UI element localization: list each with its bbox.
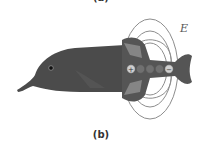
field-label: E — [180, 22, 188, 35]
svg-text:−: − — [166, 66, 172, 74]
figure-caption: (b) — [88, 129, 114, 140]
fish-body — [17, 45, 128, 92]
svg-text:+: + — [128, 66, 134, 74]
fish-eye — [49, 66, 54, 71]
